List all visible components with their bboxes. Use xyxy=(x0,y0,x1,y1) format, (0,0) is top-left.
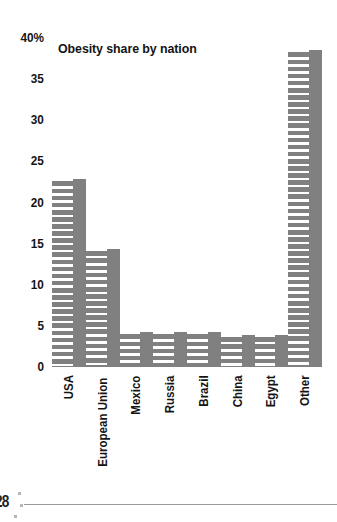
bar-hatch-pattern xyxy=(120,332,141,367)
plot-area xyxy=(52,38,322,367)
bar[interactable] xyxy=(153,332,187,367)
x-axis-tick: USA xyxy=(52,370,86,488)
footer-speck xyxy=(20,504,23,507)
bar-hatch-pattern xyxy=(255,335,276,367)
footer-speck xyxy=(14,515,17,518)
x-axis-tick-label: Brazil xyxy=(197,375,211,406)
x-axis-tick-label: USA xyxy=(62,375,76,399)
y-axis: 40%35302520151050 xyxy=(0,30,47,375)
y-axis-tick-label: 10 xyxy=(31,278,44,292)
x-axis-tick: China xyxy=(221,370,255,488)
x-axis-tick-label: Russia xyxy=(163,376,177,414)
y-axis-tick-label: 40% xyxy=(20,31,44,45)
bar-hatch-pattern xyxy=(153,332,174,367)
x-axis-tick: Russia xyxy=(153,370,187,488)
chart-figure: Obesity share by nation 40%3530252015105… xyxy=(0,0,337,522)
y-axis-tick-label: 0 xyxy=(37,360,44,374)
y-axis-tick-label: 35 xyxy=(31,72,44,86)
bar-hatch-pattern xyxy=(221,335,242,367)
bar[interactable] xyxy=(187,332,221,367)
x-axis-tick: Brazil xyxy=(187,370,221,488)
bar-hatch-pattern xyxy=(288,50,309,367)
bar[interactable] xyxy=(86,249,120,367)
y-axis-tick-label: 30 xyxy=(31,113,44,127)
y-axis-tick-label: 25 xyxy=(31,154,44,168)
bar-hatch-pattern xyxy=(187,332,208,367)
x-axis-tick: Other xyxy=(288,370,322,488)
footer-divider xyxy=(24,504,337,505)
x-axis-tick: European Union xyxy=(86,370,120,488)
x-axis-tick: Mexico xyxy=(120,370,154,488)
bar[interactable] xyxy=(52,179,86,367)
bar-hatch-pattern xyxy=(52,179,73,367)
y-axis-tick-label: 15 xyxy=(31,237,44,251)
x-axis-tick-label: China xyxy=(231,375,245,407)
y-axis-tick-label: 5 xyxy=(37,319,44,333)
x-axis: USAEuropean UnionMexicoRussiaBrazilChina… xyxy=(52,370,322,490)
bar[interactable] xyxy=(221,335,255,367)
x-axis-tick-label: Other xyxy=(298,375,312,406)
y-axis-tick-label: 20 xyxy=(31,196,44,210)
bar[interactable] xyxy=(288,50,322,367)
x-axis-tick-label: Egypt xyxy=(264,375,278,407)
x-axis-tick: Egypt xyxy=(255,370,289,488)
page-footer: 28 xyxy=(0,488,337,522)
page-number: 28 xyxy=(0,492,9,512)
x-axis-tick-label: European Union xyxy=(96,378,110,467)
bar-hatch-pattern xyxy=(86,249,107,367)
bar[interactable] xyxy=(255,335,289,367)
x-axis-tick-label: Mexico xyxy=(129,376,143,415)
bar[interactable] xyxy=(120,332,154,367)
footer-speck xyxy=(18,492,21,495)
